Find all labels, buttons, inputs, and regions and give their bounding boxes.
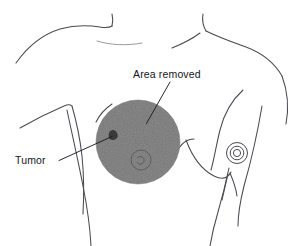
left-torso-side-line [67, 110, 91, 246]
illustration-canvas: Area removed Tumor [0, 0, 306, 246]
right-nipple-center [233, 149, 240, 156]
right-arm-outer-line [282, 76, 288, 124]
medical-illustration-figure: Area removed Tumor [0, 0, 306, 246]
right-breast-underside [186, 140, 231, 178]
right-areola-inner-ring [230, 146, 244, 160]
right-neck-line [203, 14, 206, 31]
area-removed-label: Area removed [133, 68, 201, 80]
right-breast-outline [211, 90, 243, 170]
right-nipple-group [227, 143, 248, 164]
right-arm-inner-line [238, 106, 262, 226]
right-breast-fold-line-1 [230, 173, 237, 196]
right-areola-outer-ring [227, 143, 248, 164]
right-shoulder-line [206, 31, 282, 76]
tumor-label: Tumor [15, 154, 46, 166]
area-removed-shading [96, 100, 180, 184]
left-armpit-line [20, 105, 72, 129]
area-removed-region [96, 100, 180, 184]
left-shoulder-line [16, 26, 112, 63]
left-neck-line [112, 14, 113, 26]
left-breast-underside [179, 139, 194, 148]
collarbone-center-line [97, 41, 142, 45]
right-clavicle-line [172, 33, 200, 48]
